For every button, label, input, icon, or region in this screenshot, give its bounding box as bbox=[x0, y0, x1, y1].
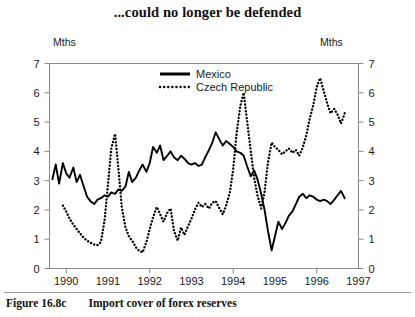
y-axis-ticks-right: 01234567 bbox=[359, 58, 375, 275]
chart-legend: MexicoCzech Republic bbox=[160, 68, 274, 93]
figure-caption: Figure 16.8cImport cover of forex reserv… bbox=[6, 297, 237, 309]
figure-number: Figure 16.8c bbox=[6, 297, 66, 309]
svg-text:Czech Republic: Czech Republic bbox=[196, 81, 274, 93]
data-series-group bbox=[52, 78, 344, 252]
svg-text:1991: 1991 bbox=[96, 275, 120, 287]
svg-text:4: 4 bbox=[33, 145, 39, 157]
svg-text:2: 2 bbox=[369, 204, 375, 216]
svg-text:1: 1 bbox=[369, 233, 375, 245]
svg-text:1: 1 bbox=[33, 233, 39, 245]
svg-text:4: 4 bbox=[369, 145, 375, 157]
svg-text:1996: 1996 bbox=[305, 275, 329, 287]
axis-frame bbox=[50, 64, 359, 269]
caption-divider bbox=[4, 292, 411, 293]
figure-caption-text: Import cover of forex reserves bbox=[88, 297, 236, 309]
svg-text:1990: 1990 bbox=[54, 275, 78, 287]
svg-text:1994: 1994 bbox=[221, 275, 245, 287]
svg-text:5: 5 bbox=[33, 116, 39, 128]
svg-text:3: 3 bbox=[369, 175, 375, 187]
svg-text:7: 7 bbox=[369, 58, 375, 70]
svg-text:1995: 1995 bbox=[263, 275, 287, 287]
svg-text:2: 2 bbox=[33, 204, 39, 216]
svg-text:1997: 1997 bbox=[346, 275, 370, 287]
svg-text:3: 3 bbox=[33, 175, 39, 187]
svg-text:Mexico: Mexico bbox=[196, 68, 231, 80]
svg-text:1992: 1992 bbox=[137, 275, 161, 287]
x-axis-ticks: 19901991199219931994199519961997 bbox=[54, 269, 371, 287]
svg-text:1993: 1993 bbox=[179, 275, 203, 287]
figure-container: ...could no longer be defended Mths Mths… bbox=[0, 0, 415, 317]
svg-text:0: 0 bbox=[369, 263, 375, 275]
svg-text:5: 5 bbox=[369, 116, 375, 128]
y-axis-ticks-left: 01234567 bbox=[33, 58, 49, 275]
line-chart-plot: 01234567 01234567 1990199119921993199419… bbox=[0, 0, 415, 292]
svg-text:6: 6 bbox=[369, 87, 375, 99]
svg-text:0: 0 bbox=[33, 263, 39, 275]
svg-text:7: 7 bbox=[33, 58, 39, 70]
svg-text:6: 6 bbox=[33, 87, 39, 99]
